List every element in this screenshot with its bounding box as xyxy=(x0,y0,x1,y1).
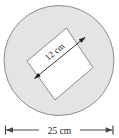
arrowhead-right-icon xyxy=(106,127,113,132)
circle-diameter-dimension: 25 cm xyxy=(6,126,114,136)
arrowhead-left-icon xyxy=(6,127,13,132)
geometry-figure: 12 cm 25 cm xyxy=(0,0,119,138)
circle-diameter-label: 25 cm xyxy=(48,126,72,136)
figure-canvas: 12 cm 25 cm xyxy=(0,0,119,138)
